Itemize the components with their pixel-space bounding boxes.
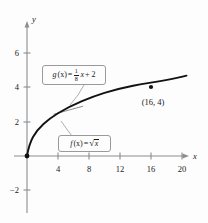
g-fraction: 1 8 xyxy=(74,68,79,82)
g-equation: g(x) = 1 8 x + 2 xyxy=(52,68,95,82)
x-tick-label-12: 12 xyxy=(116,164,125,174)
f-equation: f(x) = √ x xyxy=(70,139,99,149)
x-tick-label-4: 4 xyxy=(56,164,61,174)
x-axis-arrowhead xyxy=(183,154,190,159)
f-radicand: x xyxy=(94,139,99,148)
y-tick-label-2: 2 xyxy=(15,117,19,127)
g-function-callout: g(x) = 1 8 x + 2 xyxy=(42,65,106,85)
y-tick-label-neg2: −2 xyxy=(10,185,19,195)
f-radical: √ x xyxy=(89,139,99,149)
x-axis-label: x xyxy=(192,151,197,161)
origin-point-marker xyxy=(25,154,30,159)
f-callout-leader-line xyxy=(61,121,72,136)
f-fn-arg: (x) xyxy=(73,140,82,148)
y-axis-label: y xyxy=(31,14,36,24)
plot-canvas: 4 8 12 16 20 6 4 2 −2 y x (16, 4) xyxy=(0,0,208,223)
x-tick-label-20: 20 xyxy=(178,164,187,174)
f-fn-name: f xyxy=(70,140,72,148)
f-equals: = xyxy=(84,140,89,148)
point-label-16-4: (16, 4) xyxy=(142,97,165,107)
g-plus-term: + 2 xyxy=(85,71,96,79)
y-axis-arrowhead xyxy=(25,21,30,28)
x-tick-label-8: 8 xyxy=(87,164,91,174)
point-marker-16-4 xyxy=(149,85,153,89)
y-tick-label-4: 4 xyxy=(15,82,20,92)
f-function-callout: f(x) = √ x xyxy=(58,135,111,152)
g-fn-name: g xyxy=(52,71,56,79)
g-fraction-denominator: 8 xyxy=(74,76,79,82)
graph-figure: 4 8 12 16 20 6 4 2 −2 y x (16, 4) g(x) = xyxy=(0,0,208,223)
x-tick-label-16: 16 xyxy=(147,164,156,174)
g-variable: x xyxy=(80,71,84,79)
y-tick-label-6: 6 xyxy=(15,48,19,58)
g-equals: = xyxy=(68,71,73,79)
g-fraction-numerator: 1 xyxy=(74,68,79,74)
g-fn-arg: (x) xyxy=(57,71,66,79)
